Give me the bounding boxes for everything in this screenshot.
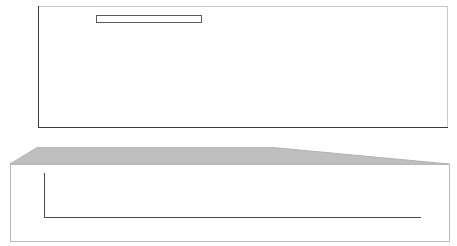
bottom-plot-area: [44, 173, 421, 218]
bottom-inset-panel: [10, 164, 450, 242]
figure-tidal-floods: [0, 0, 457, 246]
observed-bars-bottom: [44, 173, 421, 218]
higher-emissions-band: [38, 6, 448, 128]
top-plot-area: [38, 6, 448, 128]
legend-top-chart: [96, 15, 202, 23]
top-chart-panel: [0, 0, 457, 148]
